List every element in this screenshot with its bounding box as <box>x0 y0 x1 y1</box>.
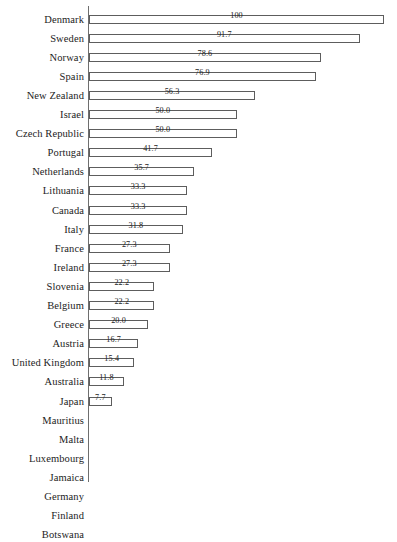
category-label: Greece <box>0 315 84 334</box>
bar-row: Canada33.3 <box>0 201 397 220</box>
category-label: Mauritius <box>0 411 84 430</box>
bar-row: France27.3 <box>0 239 397 258</box>
category-label: Lithuania <box>0 181 84 200</box>
bar-value-label: 22.2 <box>89 277 154 288</box>
bar-row: Spain76.9 <box>0 67 397 86</box>
bar-row: Belgium22.2 <box>0 296 397 315</box>
category-label: Italy <box>0 220 84 239</box>
category-label: Denmark <box>0 10 84 29</box>
bar-track: 15.4 <box>89 353 384 372</box>
bar-row: Norway78.6 <box>0 48 397 67</box>
bar-row: Ireland27.3 <box>0 258 397 277</box>
bar-value-label: 15.4 <box>89 353 134 364</box>
bar-value-label: 33.3 <box>89 181 187 192</box>
bar-track: 27.3 <box>89 258 384 277</box>
bar-track: 16.7 <box>89 334 384 353</box>
category-label: Japan <box>0 392 84 411</box>
bar-track <box>89 449 384 468</box>
category-label: Israel <box>0 105 84 124</box>
bar-track: 33.3 <box>89 181 384 200</box>
bar-track: 7.7 <box>89 392 384 411</box>
bar-value-label: 31.8 <box>89 220 183 231</box>
bar-value-label: 76.9 <box>89 67 316 78</box>
bar-row: Slovenia22.2 <box>0 277 397 296</box>
category-label: Jamaica <box>0 468 84 487</box>
bar-track: 20.0 <box>89 315 384 334</box>
category-label: Luxembourg <box>0 449 84 468</box>
category-label: France <box>0 239 84 258</box>
bar-value-label: 7.7 <box>89 392 112 403</box>
bar-track <box>89 525 384 542</box>
bar-track: 76.9 <box>89 67 384 86</box>
bar-row: Denmark100 <box>0 10 397 29</box>
category-label: Canada <box>0 201 84 220</box>
bar-track: 11.8 <box>89 372 384 391</box>
category-label: Australia <box>0 372 84 391</box>
bar-row: Botswana <box>0 525 397 542</box>
bar-row: Lithuania33.3 <box>0 181 397 200</box>
bar-track: 41.7 <box>89 143 384 162</box>
bar-row: Austria16.7 <box>0 334 397 353</box>
bar-row: Czech Republic50.0 <box>0 124 397 143</box>
bar-value-label: 100 <box>89 10 384 21</box>
category-label: Portugal <box>0 143 84 162</box>
category-label: Finland <box>0 506 84 525</box>
bar-value-label: 20.0 <box>89 315 148 326</box>
bar-row: Germany <box>0 487 397 506</box>
bar-row: Netherlands35.7 <box>0 162 397 181</box>
category-label: New Zealand <box>0 86 84 105</box>
bar-value-label: 56.3 <box>89 86 255 97</box>
bar-value-label: 91.7 <box>89 29 360 40</box>
category-label: Norway <box>0 48 84 67</box>
bar-value-label: 27.3 <box>89 239 170 250</box>
bar-track: 31.8 <box>89 220 384 239</box>
bar-row: Mauritius <box>0 411 397 430</box>
bar-row: New Zealand56.3 <box>0 86 397 105</box>
bar-track <box>89 468 384 487</box>
bar-track <box>89 430 384 449</box>
bar-row: Jamaica <box>0 468 397 487</box>
bar-track: 100 <box>89 10 384 29</box>
category-label: United Kingdom <box>0 353 84 372</box>
bar-row: Luxembourg <box>0 449 397 468</box>
bar-track: 27.3 <box>89 239 384 258</box>
category-label: Belgium <box>0 296 84 315</box>
bar-track: 22.2 <box>89 296 384 315</box>
bar-value-label: 16.7 <box>89 334 138 345</box>
bar-row: Portugal41.7 <box>0 143 397 162</box>
category-label: Germany <box>0 487 84 506</box>
bar-track: 56.3 <box>89 86 384 105</box>
category-label: Czech Republic <box>0 124 84 143</box>
bar-track: 50.0 <box>89 124 384 143</box>
bar-value-label: 78.6 <box>89 48 321 59</box>
bar-value-label: 11.8 <box>89 372 124 383</box>
category-label: Ireland <box>0 258 84 277</box>
bar-row: Japan7.7 <box>0 392 397 411</box>
bar-row: Israel50.0 <box>0 105 397 124</box>
bar-value-label: 41.7 <box>89 143 212 154</box>
bar-value-label: 50.0 <box>89 105 237 116</box>
bar-value-label: 35.7 <box>89 162 194 173</box>
category-label: Slovenia <box>0 277 84 296</box>
bar-row: Sweden91.7 <box>0 29 397 48</box>
bar-track: 35.7 <box>89 162 384 181</box>
bar-row: Italy31.8 <box>0 220 397 239</box>
bar-track: 22.2 <box>89 277 384 296</box>
category-label: Malta <box>0 430 84 449</box>
category-label: Spain <box>0 67 84 86</box>
bar-track <box>89 487 384 506</box>
category-label: Netherlands <box>0 162 84 181</box>
bar-row: Malta <box>0 430 397 449</box>
bar-track: 50.0 <box>89 105 384 124</box>
bar-value-label: 33.3 <box>89 201 187 212</box>
bar-track: 91.7 <box>89 29 384 48</box>
bar-row: Greece20.0 <box>0 315 397 334</box>
bar-value-label: 50.0 <box>89 124 237 135</box>
bar-row: Finland <box>0 506 397 525</box>
bar-row: United Kingdom15.4 <box>0 353 397 372</box>
bar-row: Australia11.8 <box>0 372 397 391</box>
category-label: Austria <box>0 334 84 353</box>
bar-track <box>89 506 384 525</box>
bar-track: 78.6 <box>89 48 384 67</box>
